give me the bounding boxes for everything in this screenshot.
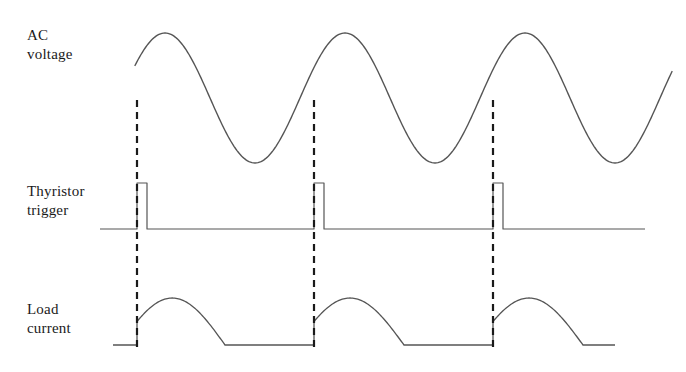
load-current-trace-group xyxy=(113,298,615,345)
waveform-figure: AC voltage Thyristor trigger Load curren… xyxy=(0,0,686,372)
ac-voltage-trace-group xyxy=(135,33,672,163)
waveform-plot xyxy=(0,0,686,372)
thyristor-trigger-trace-group xyxy=(100,183,645,229)
ac-voltage-sine-trace xyxy=(135,33,672,163)
thyristor-trigger-pulse-trace xyxy=(100,183,645,229)
load-current-trace xyxy=(113,298,615,345)
firing-angle-marker-group xyxy=(137,100,493,347)
